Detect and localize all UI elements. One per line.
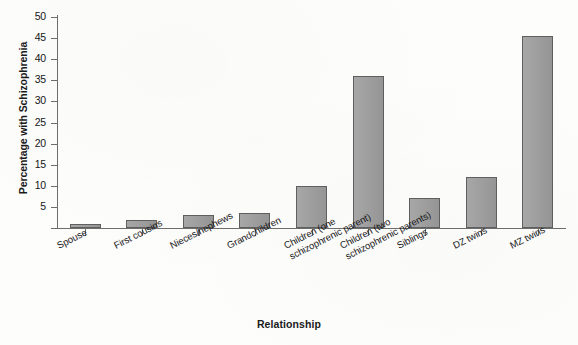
y-tick-label: 40 — [24, 52, 46, 64]
y-tick-label: 25 — [24, 116, 46, 128]
y-tick-label: 50 — [24, 10, 46, 22]
bar — [522, 36, 553, 228]
plot-area — [57, 17, 566, 228]
y-tick-label: 10 — [24, 179, 46, 191]
x-axis-title: Relationship — [0, 318, 578, 330]
bar-shading — [71, 225, 100, 227]
y-tick-label: 35 — [24, 73, 46, 85]
y-tick-label: 45 — [24, 31, 46, 43]
y-tick-label: 20 — [24, 137, 46, 149]
y-tick-label: 15 — [24, 158, 46, 170]
bar — [466, 177, 497, 228]
bar-shading — [523, 37, 552, 227]
y-tick-mark — [51, 228, 57, 229]
bar-shading — [467, 178, 496, 227]
chart-figure: Percentage with Schizophrenia 5101520253… — [0, 0, 578, 345]
x-axis-label: Spouse — [55, 226, 89, 251]
y-tick-label: 30 — [24, 94, 46, 106]
y-tick-label: 5 — [24, 200, 46, 212]
